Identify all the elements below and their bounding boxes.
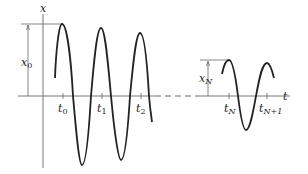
tick-label-t2: t2 [136,102,146,116]
x0-label: x0 [21,56,32,70]
vertical-axis-label: x [40,2,47,15]
damped-oscillation-diagram: x t x0 xN t0 t1 t2 tN tN+1 [0,0,308,174]
tick-label-t1: t1 [97,102,107,116]
oscillation-curve-initial [55,24,152,165]
horizontal-axis-label: t [283,90,288,103]
tick-label-t0: t0 [58,102,68,116]
oscillation-curve-later [222,60,274,130]
diagram-canvas: x t x0 xN t0 t1 t2 tN tN+1 [0,0,308,174]
tick-label-tN: tN [224,102,236,116]
xN-label: xN [199,72,213,86]
tick-label-tN1: tN+1 [259,102,282,116]
